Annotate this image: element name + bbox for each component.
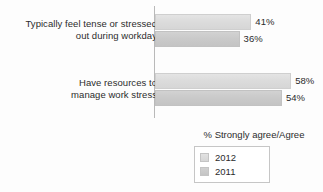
- legend-swatch-2012-icon: [200, 153, 209, 162]
- bar-stressed-2012: [155, 14, 251, 30]
- bar-resources-2011: [155, 90, 282, 106]
- value-label-resources-2011: 54%: [286, 92, 305, 103]
- category-label-line-2: out during workday: [5, 30, 157, 42]
- category-label-stressed: Typically feel tense or stressed out dur…: [5, 18, 157, 41]
- value-label-resources-2012: 58%: [295, 75, 314, 86]
- legend: 2012 2011: [194, 146, 270, 183]
- bar-resources-2012: [155, 73, 291, 89]
- legend-item-2011: 2011: [200, 164, 264, 178]
- legend-title: % Strongly agree/Agree: [185, 129, 323, 140]
- value-label-stressed-2012: 41%: [255, 16, 274, 27]
- legend-swatch-2011-icon: [200, 167, 209, 176]
- category-label-line-1: Have resources to: [5, 77, 157, 89]
- category-label-resources: Have resources to manage work stress: [5, 77, 157, 100]
- legend-item-2012: 2012: [200, 150, 264, 164]
- value-label-stressed-2011: 36%: [244, 33, 263, 44]
- legend-label-2011: 2011: [215, 166, 235, 177]
- bar-stressed-2011: [155, 31, 240, 47]
- bar-chart: Typically feel tense or stressed out dur…: [0, 0, 323, 192]
- category-label-line-2: manage work stress: [5, 89, 157, 101]
- legend-label-2012: 2012: [215, 152, 236, 163]
- category-label-line-1: Typically feel tense or stressed: [5, 18, 157, 30]
